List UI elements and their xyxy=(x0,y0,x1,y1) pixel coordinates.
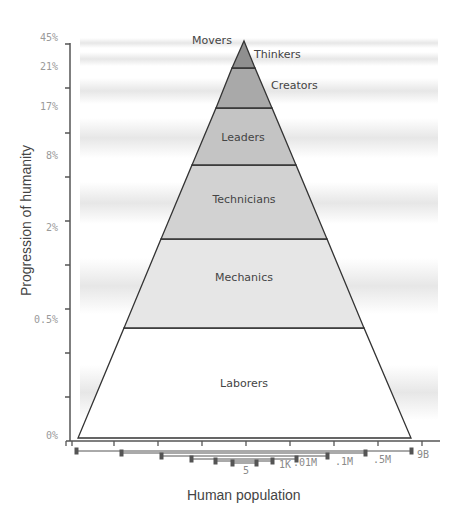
tier-thinkers xyxy=(232,41,255,68)
x-axis-title: Human population xyxy=(187,487,301,503)
pyramid-graphic xyxy=(0,0,465,521)
tier-label-creators: Creators xyxy=(271,79,318,92)
y-tick-label-0-5: 0.5% xyxy=(18,314,58,325)
x-label-0-1m: .1M xyxy=(335,456,353,467)
tier-creators xyxy=(216,68,272,108)
pyramid-diagram: 45% 21% 17% 8% 2% 0.5% 0% Movers Thinker… xyxy=(0,0,465,521)
tier-label-laborers: Laborers xyxy=(220,377,268,390)
y-tick-label-45: 45% xyxy=(18,32,58,43)
y-axis-title: Progression of humanity xyxy=(18,156,34,296)
y-tick-label-17: 17% xyxy=(18,101,58,112)
tier-label-technicians: Technicians xyxy=(212,193,275,206)
x-label-9b: 9B xyxy=(417,449,429,460)
tier-label-thinkers: Thinkers xyxy=(254,48,301,61)
tier-label-mechanics: Mechanics xyxy=(215,271,273,284)
population-range-bars xyxy=(75,448,413,466)
y-tick-label-0: 0% xyxy=(18,430,58,441)
x-label-0-5m: .5M xyxy=(373,454,391,465)
tier-label-leaders: Leaders xyxy=(221,131,264,144)
x-label-1k: 1K xyxy=(279,459,291,470)
tier-label-movers: Movers xyxy=(192,34,232,47)
x-label-5: 5 xyxy=(243,465,249,476)
x-label-0-01m: .01M xyxy=(293,457,317,468)
y-tick-label-21: 21% xyxy=(18,61,58,72)
